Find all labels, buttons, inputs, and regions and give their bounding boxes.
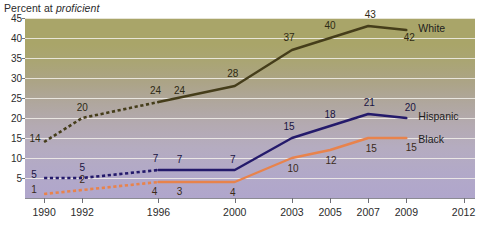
data-label-white-2003: 37	[283, 32, 294, 43]
series-label-white: White	[418, 22, 445, 34]
x-axis-tick-label: 2012	[452, 206, 475, 218]
x-axis-tick-label: 2009	[395, 206, 418, 218]
data-label-black-1990: 1	[31, 184, 37, 195]
x-axis-tick-label: 1992	[71, 206, 94, 218]
data-label-hispanic-2000: 7	[230, 154, 236, 165]
chart-title-italic: proficient	[56, 2, 100, 14]
x-axis-tick-label: 1990	[32, 206, 55, 218]
x-axis-tick-label: 2005	[318, 206, 341, 218]
data-label-white-2005: 40	[325, 20, 336, 31]
data-label-black-2005: 12	[326, 155, 337, 166]
data-label-black-1996: 4	[152, 186, 158, 197]
x-axis-tick	[44, 198, 45, 203]
y-axis-tick-label: 15	[2, 133, 22, 144]
data-label-hispanic-1992: 5	[79, 162, 85, 173]
y-axis-tick-label: 30	[2, 73, 22, 84]
x-axis-tick	[158, 198, 159, 203]
data-label-white-2009: 42	[404, 32, 415, 43]
y-axis-tick-label: 20	[2, 113, 22, 124]
x-axis-tick	[292, 198, 293, 203]
x-axis-tick	[82, 198, 83, 203]
x-axis-tick-label: 2003	[280, 206, 303, 218]
x-axis-tick	[406, 198, 407, 203]
y-axis-tick-label: 40	[2, 33, 22, 44]
data-label-white-1996: 24	[150, 85, 161, 96]
chart-container: Percent at proficient 51015202530354045 …	[0, 0, 481, 234]
y-axis-tick-label: 35	[2, 53, 22, 64]
y-axis-tick-label: 45	[2, 13, 22, 24]
x-axis-tick	[368, 198, 369, 203]
series-label-hispanic: Hispanic	[418, 110, 458, 122]
data-label-white-2000: 28	[227, 68, 238, 79]
data-label-black-1992: 2	[79, 174, 85, 185]
data-label-black-transition: 3	[177, 186, 183, 197]
data-label-black-2007: 15	[366, 143, 377, 154]
y-axis-tick-label: 10	[2, 153, 22, 164]
data-label-white-1990: 14	[30, 133, 41, 144]
data-label-hispanic-2007: 21	[364, 97, 375, 108]
data-label-hispanic-transition: 7	[177, 154, 183, 165]
y-axis-tick-label: 5	[2, 173, 22, 184]
y-axis: 51015202530354045	[0, 18, 22, 198]
x-axis-tick	[235, 198, 236, 203]
data-label-white-transition: 24	[174, 85, 185, 96]
data-label-black-2000: 4	[230, 187, 236, 198]
data-label-hispanic-2009: 20	[405, 102, 416, 113]
series-line-dashed-black	[44, 182, 158, 194]
series-label-black: Black	[418, 133, 444, 145]
data-label-hispanic-1996: 7	[153, 153, 159, 164]
data-label-hispanic-2003: 15	[283, 121, 294, 132]
y-axis-tick-label: 25	[2, 93, 22, 104]
x-axis-tick-label: 1996	[147, 206, 170, 218]
data-label-hispanic-2005: 18	[325, 109, 336, 120]
data-label-hispanic-1990: 5	[31, 169, 37, 180]
data-label-black-2009: 15	[406, 142, 417, 153]
x-axis-tick-label: 2007	[357, 206, 380, 218]
x-axis-tick	[330, 198, 331, 203]
x-axis-tick-label: 2000	[223, 206, 246, 218]
data-label-white-1992: 20	[77, 102, 88, 113]
x-axis-line	[25, 198, 475, 199]
data-label-black-2003: 10	[287, 163, 298, 174]
series-line-dashed-white	[44, 102, 158, 142]
x-axis-tick	[464, 198, 465, 203]
data-label-white-2007: 43	[365, 9, 376, 20]
series-line-dashed-hispanic	[44, 170, 158, 178]
